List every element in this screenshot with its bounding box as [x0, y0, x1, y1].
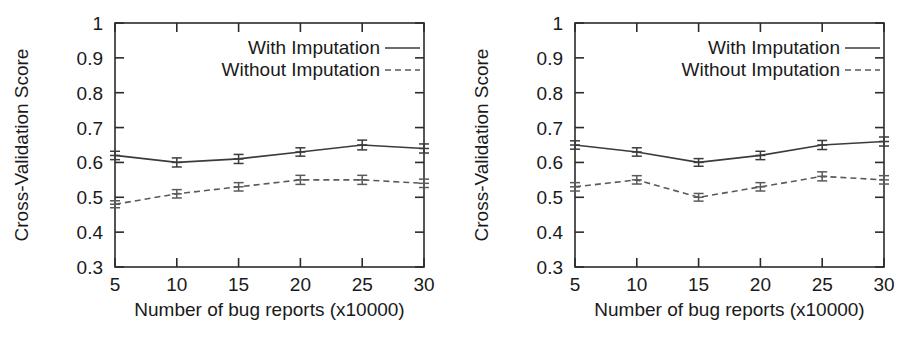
chart-svg-right: 0.30.40.50.60.70.80.9151015202530Number …: [460, 0, 921, 343]
errorbar-0-4: [357, 140, 367, 150]
errorbar-0-5: [879, 137, 889, 146]
errorbar-1-0: [110, 201, 120, 208]
errorbar-1-0: [570, 183, 580, 191]
y-axis-title: Cross-Validation Score: [471, 49, 492, 242]
figure-two-panel-line-charts: 0.30.40.50.60.70.80.9151015202530Number …: [0, 0, 921, 343]
errorbar-0-1: [632, 148, 642, 156]
y-tick-label-5: 0.8: [77, 83, 103, 104]
y-tick-label-2: 0.5: [537, 187, 563, 208]
series-line-0: [115, 145, 424, 162]
y-tick-label-2: 0.5: [77, 187, 103, 208]
x-tick-label-5: 30: [413, 274, 434, 295]
legend-label-0: With Imputation: [248, 37, 380, 58]
errorbar-1-4: [357, 175, 367, 184]
series-line-1: [115, 180, 424, 204]
x-axis-title: Number of bug reports (x10000): [594, 299, 864, 320]
plot-right: 0.30.40.50.60.70.80.9151015202530Number …: [471, 13, 895, 320]
x-tick-label-0: 5: [110, 274, 121, 295]
chart-panel-right: 0.30.40.50.60.70.80.9151015202530Number …: [460, 0, 921, 343]
errorbar-1-3: [755, 183, 765, 191]
y-tick-label-3: 0.6: [537, 152, 563, 173]
plot-left: 0.30.40.50.60.70.80.9151015202530Number …: [11, 13, 435, 320]
errorbar-0-5: [419, 144, 429, 153]
legend: With ImputationWithout Imputation: [682, 37, 880, 80]
errorbar-0-1: [172, 158, 182, 167]
errorbar-1-1: [632, 176, 642, 184]
y-tick-label-7: 1: [92, 13, 103, 34]
errorbar-0-3: [295, 148, 305, 156]
y-tick-label-5: 0.8: [537, 83, 563, 104]
x-tick-label-2: 15: [228, 274, 249, 295]
errorbar-1-2: [694, 193, 704, 201]
errorbar-0-2: [694, 159, 704, 167]
errorbar-0-0: [570, 141, 580, 149]
x-axis-title: Number of bug reports (x10000): [134, 299, 404, 320]
legend-label-1: Without Imputation: [682, 59, 840, 80]
x-tick-label-1: 10: [626, 274, 647, 295]
errorbar-1-5: [879, 176, 889, 184]
legend: With ImputationWithout Imputation: [222, 37, 420, 80]
x-tick-label-4: 25: [352, 274, 373, 295]
errorbar-0-4: [817, 140, 827, 149]
y-tick-label-1: 0.4: [537, 222, 564, 243]
y-tick-label-6: 0.9: [537, 48, 563, 69]
errorbar-1-5: [419, 179, 429, 187]
x-tick-label-5: 30: [873, 274, 894, 295]
legend-label-1: Without Imputation: [222, 59, 380, 80]
y-tick-label-4: 0.7: [77, 118, 103, 139]
x-tick-label-3: 20: [750, 274, 771, 295]
y-tick-label-3: 0.6: [77, 152, 103, 173]
errorbar-1-4: [817, 172, 827, 181]
y-tick-label-0: 0.3: [537, 257, 563, 278]
x-tick-label-1: 10: [166, 274, 187, 295]
errorbar-0-0: [110, 151, 120, 159]
x-tick-label-0: 5: [570, 274, 581, 295]
y-tick-label-0: 0.3: [77, 257, 103, 278]
errorbar-0-2: [234, 154, 244, 163]
chart-svg-left: 0.30.40.50.60.70.80.9151015202530Number …: [0, 0, 460, 343]
y-tick-label-6: 0.9: [77, 48, 103, 69]
errorbar-1-2: [234, 183, 244, 191]
legend-label-0: With Imputation: [708, 37, 840, 58]
y-axis-title: Cross-Validation Score: [11, 49, 32, 242]
series-line-0: [575, 142, 884, 163]
x-tick-label-2: 15: [688, 274, 709, 295]
chart-panel-left: 0.30.40.50.60.70.80.9151015202530Number …: [0, 0, 460, 343]
errorbar-0-3: [755, 151, 765, 159]
y-tick-label-1: 0.4: [77, 222, 104, 243]
series-line-1: [575, 176, 884, 197]
errorbar-1-3: [295, 175, 305, 184]
errorbar-1-1: [172, 190, 182, 198]
y-tick-label-4: 0.7: [537, 118, 563, 139]
x-tick-label-4: 25: [812, 274, 833, 295]
y-tick-label-7: 1: [552, 13, 563, 34]
x-tick-label-3: 20: [290, 274, 311, 295]
